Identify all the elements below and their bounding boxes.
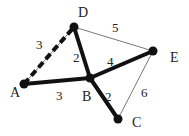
weighted-graph: 3325426ABCDE bbox=[0, 0, 189, 136]
node-label-B: B bbox=[82, 89, 91, 104]
node-D bbox=[70, 23, 79, 32]
node-B bbox=[86, 74, 95, 83]
node-C bbox=[114, 115, 123, 124]
edge-weight-EC: 6 bbox=[141, 85, 148, 100]
edge-weight-BC: 2 bbox=[105, 89, 112, 104]
edge-weight-AD: 3 bbox=[36, 37, 43, 52]
edge-AB bbox=[24, 78, 90, 84]
edge-weight-AB: 3 bbox=[56, 88, 63, 103]
edge-AD bbox=[24, 27, 74, 84]
edge-EC bbox=[118, 51, 153, 119]
edge-weight-DB: 2 bbox=[73, 50, 80, 65]
edge-weight-BE: 4 bbox=[107, 54, 114, 69]
node-label-A: A bbox=[10, 85, 21, 100]
node-A bbox=[20, 80, 29, 89]
edge-BE bbox=[90, 51, 153, 78]
edge-weight-DE: 5 bbox=[112, 20, 119, 35]
node-label-C: C bbox=[132, 115, 141, 130]
edge-BC bbox=[90, 78, 118, 119]
node-label-E: E bbox=[170, 50, 179, 65]
node-E bbox=[149, 47, 158, 56]
node-label-D: D bbox=[78, 5, 88, 20]
